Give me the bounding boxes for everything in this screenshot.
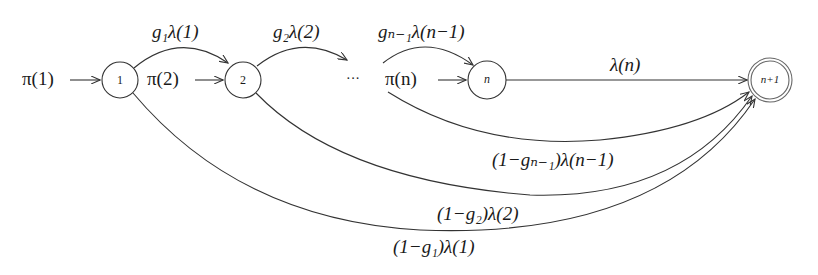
dots-label: ··· (340, 72, 366, 86)
node-1-label: 1 (110, 74, 130, 86)
edge-label-1-gn1-lambda-n1: (1−gₙ₋₁)λ(n−1) (492, 150, 614, 169)
edge-label-1-g2-lambda2: (1−g₂)λ(2) (437, 204, 518, 223)
edge-1-to-2 (134, 48, 228, 68)
edge-dots-to-n (383, 47, 473, 65)
edge-label-gn1-lambda-n1: gₙ₋₁λ(n−1) (378, 22, 465, 41)
edge-label-1-g1-lambda1: (1−g₁)λ(1) (393, 237, 474, 256)
edge-2-to-n-plus-1 (256, 93, 752, 195)
edge-label-lambda-n: λ(n) (610, 55, 640, 74)
edge-label-g1-lambda1: g₁λ(1) (152, 22, 199, 41)
entry-label-pi1: π(1) (22, 69, 54, 88)
node-n-label: n (477, 73, 497, 85)
entry-label-pi2: π(2) (147, 69, 179, 88)
edge-2-to-dots (257, 47, 347, 66)
edge-dots-to-n-plus-1 (388, 92, 749, 141)
entry-label-pin: π(n) (385, 69, 417, 88)
node-2-label: 2 (233, 74, 253, 86)
edge-label-g2-lambda2: g₂λ(2) (273, 22, 320, 41)
node-n-plus-1-label: n+1 (752, 74, 788, 85)
